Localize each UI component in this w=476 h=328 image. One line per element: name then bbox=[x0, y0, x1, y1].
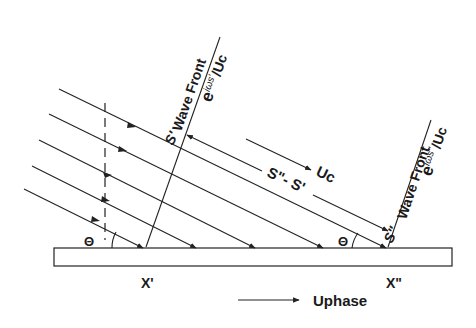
uc-label: Uc bbox=[314, 162, 339, 186]
phase-2-denominator: /Uc bbox=[428, 124, 450, 150]
wave-front-diagram: Wave Front eiωs'/Uc Wave Front eiωs"/Uc … bbox=[0, 0, 476, 328]
path-difference-label: S"- S' bbox=[265, 163, 308, 196]
uphase-label: Uphase bbox=[313, 292, 367, 309]
path-difference-arrow-right bbox=[313, 195, 388, 231]
phase-1-denominator: /Uc bbox=[208, 52, 230, 78]
ray-arrow-icon bbox=[118, 146, 127, 152]
ray-1 bbox=[59, 89, 386, 248]
ray-arrow-icon bbox=[91, 216, 100, 222]
x-prime-label: X' bbox=[141, 275, 154, 291]
uc-arrow bbox=[246, 139, 311, 170]
surface-plate bbox=[54, 248, 452, 266]
ray-arrow-icon bbox=[103, 172, 112, 178]
angle-arc-right bbox=[352, 233, 358, 248]
theta-left-label: Θ bbox=[84, 234, 94, 249]
path-difference-arrow-left bbox=[187, 135, 262, 171]
x-double-prime-label: X" bbox=[386, 275, 402, 291]
theta-right-label: Θ bbox=[338, 234, 348, 249]
ray-arrow-icon bbox=[127, 122, 136, 128]
ray-3 bbox=[39, 140, 255, 248]
s-double-prime-label: S" bbox=[380, 224, 401, 246]
